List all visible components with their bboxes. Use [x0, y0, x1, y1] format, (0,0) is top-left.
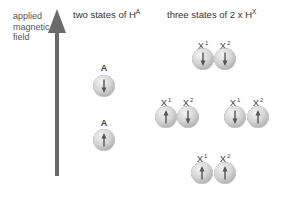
spin-down-sphere-icon [178, 107, 199, 128]
x-sup: 1 [204, 153, 207, 159]
title-right-text: three states of 2 x H [167, 9, 252, 20]
spin-up-sphere-icon [248, 107, 269, 128]
spin-down-sphere-icon [193, 49, 214, 70]
x-sup: 2 [190, 97, 193, 103]
spin-up-sphere-icon [215, 163, 236, 184]
x-sup: 2 [260, 97, 263, 103]
field-label-line-2: magnetic [13, 22, 50, 33]
field-label-line-3: field [13, 32, 50, 43]
x-sup: 2 [227, 153, 230, 159]
spin-down-sphere-icon [94, 76, 115, 97]
x-sup: 1 [205, 40, 208, 46]
title-three-states-hx: three states of 2 x HX [167, 8, 256, 20]
title-left-text: two states of H [73, 9, 136, 20]
x-sup: 1 [168, 97, 171, 103]
spin-up-sphere-icon [94, 130, 115, 151]
field-label-line-1: applied [13, 11, 50, 22]
spin-down-sphere-icon [225, 107, 246, 128]
x-sup: 2 [227, 40, 230, 46]
title-two-states-ha: two states of HA [73, 8, 140, 20]
title-right-sup: X [252, 8, 256, 15]
a-label-2: A [93, 118, 115, 128]
magnetic-field-arrow-shaft [55, 30, 59, 176]
applied-magnetic-field-label: applied magnetic field [13, 11, 50, 43]
spin-down-sphere-icon [215, 49, 236, 70]
title-left-sup: A [136, 8, 140, 15]
a-label-1: A [93, 63, 115, 73]
spin-up-sphere-icon [192, 163, 213, 184]
spin-up-sphere-icon [156, 107, 177, 128]
x-sup: 1 [237, 97, 240, 103]
